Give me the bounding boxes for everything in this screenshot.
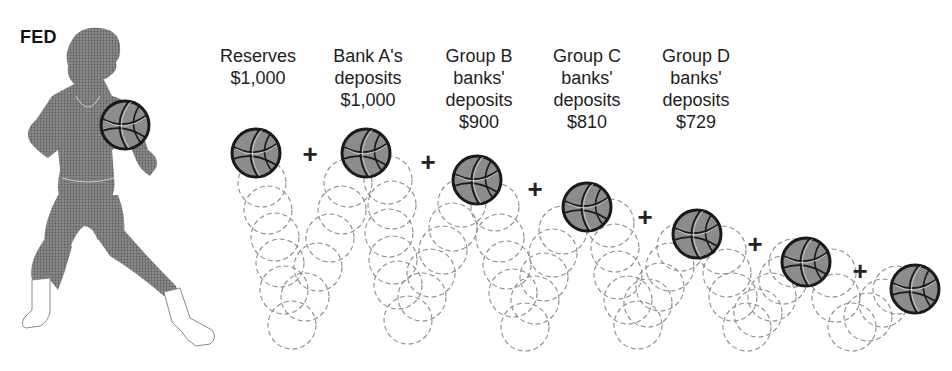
basketball-icon	[891, 265, 939, 313]
dashed-ghost-ball-icon	[844, 293, 892, 341]
dashed-ghost-ball-icon	[374, 261, 422, 309]
dashed-ghost-ball-icon	[318, 186, 366, 234]
plus-icon: +	[300, 141, 320, 167]
dashed-ghost-ball-icon	[529, 229, 577, 277]
column-label-line: banks'	[419, 67, 539, 89]
column-label-line: $1,000	[308, 89, 428, 111]
column-label-line: Group D	[636, 45, 756, 67]
column-label-line: Bank A's	[308, 45, 428, 67]
dashed-ghost-ball-icon	[483, 241, 531, 289]
column-label-line: Group C	[527, 45, 647, 67]
dashed-ghost-ball-icon	[594, 251, 642, 299]
dashed-ghost-ball-icon	[365, 209, 413, 257]
plus-icon: +	[850, 258, 870, 284]
column-label-line: Reserves	[198, 45, 318, 67]
dashed-ghost-ball-icon	[268, 301, 316, 349]
column-label-line: banks'	[636, 67, 756, 89]
basketball-icon	[673, 210, 721, 258]
column-label-4: Group Dbanks'deposits$729	[636, 45, 756, 133]
dashed-ghost-ball-icon	[256, 239, 304, 287]
basketball-icon	[782, 238, 830, 286]
column-label-line: deposits	[419, 89, 539, 111]
column-label-0: Reserves$1,000	[198, 45, 318, 89]
column-label-line: $810	[527, 111, 647, 133]
dashed-ghost-ball-icon	[384, 296, 432, 344]
column-label-2: Group Bbanks'deposits$900	[419, 45, 539, 133]
dashed-ghost-ball-icon	[368, 181, 416, 229]
column-label-3: Group Cbanks'deposits$810	[527, 45, 647, 133]
dashed-ghost-ball-icon	[614, 301, 662, 349]
dashed-ghost-ball-icon	[501, 303, 549, 351]
dashed-ghost-ball-icon	[723, 303, 771, 351]
dashed-ghost-ball-icon	[476, 214, 524, 262]
fed-basketball-icon	[101, 101, 149, 149]
column-label-line: deposits	[527, 89, 647, 111]
basketball-icon	[101, 101, 149, 149]
basketball-icon	[232, 129, 280, 177]
column-label-line: $1,000	[198, 67, 318, 89]
dashed-ghost-ball-icon	[709, 273, 757, 321]
basketball-icon	[342, 129, 390, 177]
plus-icon: +	[745, 231, 765, 257]
column-label-1: Bank A'sdeposits$1,000	[308, 45, 428, 111]
dashed-ghost-ball-icon	[734, 289, 782, 337]
column-label-line: deposits	[308, 67, 428, 89]
basketball-icon	[563, 183, 611, 231]
money-multiplier-illustration: FED Reserves$1,000Bank A'sdeposits$1,000…	[0, 0, 952, 371]
bounce-trail-0	[238, 159, 372, 349]
column-label-line: Group B	[419, 45, 539, 67]
column-label-line: $729	[636, 111, 756, 133]
column-label-line: banks'	[527, 67, 647, 89]
plus-icon: +	[418, 149, 438, 175]
dashed-ghost-ball-icon	[294, 243, 342, 291]
plus-icon: +	[635, 204, 655, 230]
dashed-ghost-ball-icon	[244, 186, 292, 234]
dashed-ghost-ball-icon	[828, 303, 876, 351]
dashed-ghost-ball-icon	[306, 214, 354, 262]
plus-icon: +	[525, 176, 545, 202]
basketball-icon	[453, 156, 501, 204]
fed-label: FED	[20, 27, 57, 48]
column-label-line: $900	[419, 111, 539, 133]
fed-player-silhouette	[22, 28, 214, 346]
dashed-ghost-ball-icon	[281, 273, 329, 321]
basketballs	[232, 129, 939, 313]
column-label-line: deposits	[636, 89, 756, 111]
dashed-ghost-ball-icon	[591, 224, 639, 272]
